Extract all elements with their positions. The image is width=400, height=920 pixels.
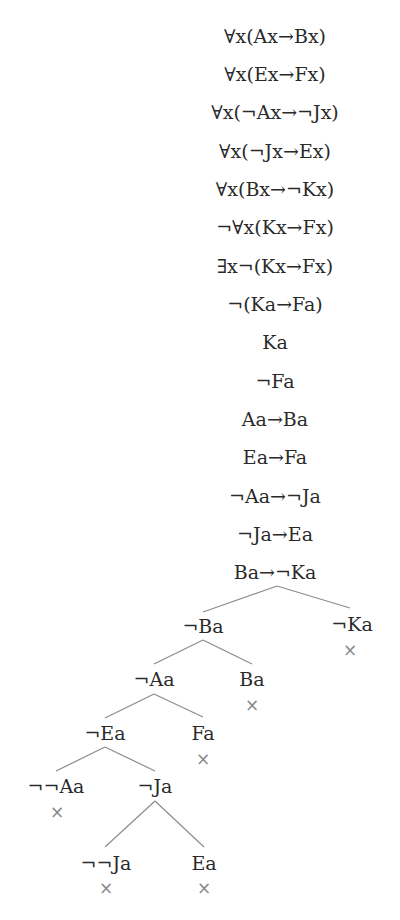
trunk-line-4: ∀x(¬Jx→Ex) <box>150 139 400 163</box>
trunk-line-1: ∀x(Ax→Bx) <box>150 24 400 48</box>
closed-branch-icon: × <box>245 696 259 714</box>
trunk-line-3: ∀x(¬Ax→¬Jx) <box>150 100 400 124</box>
trunk-line-8: ¬(Ka→Fa) <box>150 292 400 316</box>
closed-branch-icon: × <box>50 803 64 821</box>
trunk-line-15: Ba→¬Ka <box>150 560 400 584</box>
closed-branch-icon: × <box>343 641 357 659</box>
node-not-not-Aa: ¬¬Aa <box>28 774 85 798</box>
branch-line <box>105 694 154 718</box>
node-not-Ba: ¬Ba <box>182 614 223 638</box>
branch-line <box>203 586 277 612</box>
closed-branch-icon: × <box>196 750 210 768</box>
node-Fa: Fa <box>191 721 214 745</box>
trunk-line-10: ¬Fa <box>150 369 400 393</box>
trunk-line-7: ∃x¬(Kx→Fx) <box>150 254 400 278</box>
trunk-line-14: ¬Ja→Ea <box>150 522 400 546</box>
node-Ba: Ba <box>239 667 264 691</box>
branch-line <box>105 747 155 771</box>
closed-branch-icon: × <box>197 879 211 897</box>
closed-branch-icon: × <box>99 879 113 897</box>
trunk-line-5: ∀x(Bx→¬Kx) <box>150 177 400 201</box>
branch-line <box>105 801 155 847</box>
branch-line <box>154 694 203 717</box>
trunk-line-6: ¬∀x(Kx→Fx) <box>150 215 400 239</box>
branch-line <box>154 640 203 664</box>
node-not-Ka: ¬Ka <box>331 612 372 636</box>
trunk-line-11: Aa→Ba <box>150 407 400 431</box>
node-not-Ea: ¬Ea <box>84 721 125 745</box>
branch-line <box>277 586 350 608</box>
branch-line <box>203 640 252 664</box>
node-not-Aa: ¬Aa <box>134 667 175 691</box>
node-not-not-Ja: ¬¬Ja <box>81 851 132 875</box>
branch-line <box>56 747 105 771</box>
trunk-line-13: ¬Aa→¬Ja <box>150 484 400 508</box>
trunk-line-9: Ka <box>150 330 400 354</box>
branch-line <box>155 801 204 847</box>
node-not-Ja: ¬Ja <box>138 774 173 798</box>
trunk-line-12: Ea→Fa <box>150 445 400 469</box>
trunk-line-2: ∀x(Ex→Fx) <box>150 62 400 86</box>
node-Ea: Ea <box>191 851 216 875</box>
